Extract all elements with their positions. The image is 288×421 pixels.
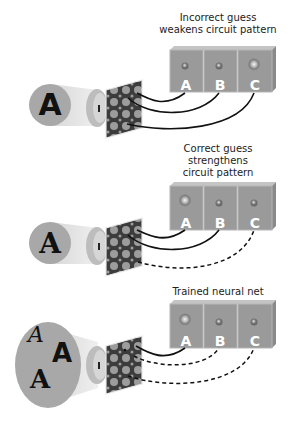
panel-incorrect-guess: Incorrect guess weakens circuit pattern	[0, 0, 288, 140]
svg-text:A: A	[181, 77, 192, 93]
svg-text:A: A	[29, 364, 51, 394]
svg-text:B: B	[215, 215, 226, 231]
sensor-grid	[106, 336, 142, 394]
svg-text:B: B	[215, 77, 226, 93]
panel-correct-guess: Correct guess strengthens circuit patter…	[0, 140, 288, 280]
svg-text:A: A	[26, 322, 44, 347]
output-boxes: A B C	[170, 300, 276, 349]
output-boxes: A B C	[170, 182, 276, 231]
neural-net-diagram: A B C A	[0, 140, 288, 280]
output-boxes: A B C	[170, 46, 276, 93]
svg-text:A: A	[181, 215, 192, 231]
svg-text:A: A	[38, 87, 62, 122]
sensor-grid	[106, 80, 142, 138]
neural-net-diagram: A B C A A A	[0, 280, 288, 421]
svg-text:C: C	[250, 215, 260, 231]
svg-text:A: A	[181, 333, 192, 349]
svg-text:C: C	[250, 333, 260, 349]
neural-net-diagram: A B C A	[0, 0, 288, 140]
svg-text:A: A	[52, 338, 72, 368]
svg-text:B: B	[215, 333, 226, 349]
sensor-grid	[106, 218, 142, 276]
svg-text:C: C	[250, 77, 260, 93]
svg-text:A: A	[38, 227, 62, 260]
panel-trained-net: Trained neural net A B C A A A	[0, 280, 288, 421]
